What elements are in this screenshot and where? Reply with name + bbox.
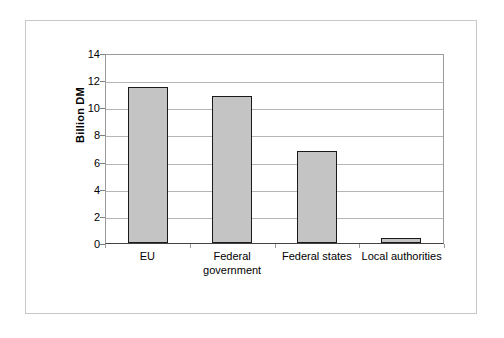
chart-figure: Billion DM 02468101214 EUFederal governm… [0,0,504,338]
y-axis-tick-mark [100,54,105,55]
bar-slot [275,55,359,243]
chart-frame: Billion DM 02468101214 EUFederal governm… [25,20,477,314]
y-axis-tick-mark [100,81,105,82]
y-axis-tick-label: 2 [78,211,100,222]
x-axis-tick-mark [444,244,445,248]
y-axis-tick-labels: 02468101214 [78,54,100,244]
x-axis-tick-mark [105,244,106,248]
plot-area [105,54,444,244]
y-axis-tick-mark [100,108,105,109]
y-axis-tick-label: 10 [78,103,100,114]
x-axis-tick-mark [275,244,276,248]
y-axis-tick-mark [100,217,105,218]
bar [212,96,252,243]
y-axis-tick-label: 6 [78,157,100,168]
bar [381,238,421,243]
bar [128,87,168,243]
x-axis-tick-mark [190,244,191,248]
bar-slot [190,55,274,243]
y-axis-tick-label: 0 [78,239,100,250]
bar-slot [106,55,190,243]
x-axis-category-label: Federal government [190,249,275,277]
x-axis-category-label: Federal states [275,249,360,277]
y-axis-tick-label: 8 [78,130,100,141]
bar [297,151,337,243]
y-axis-tick-label: 12 [78,76,100,87]
x-axis-category-label: Local authorities [359,249,444,277]
x-axis-tick-mark [359,244,360,248]
y-axis-tick-label: 14 [78,49,100,60]
bar-series [106,55,443,243]
y-axis-tick-mark [100,163,105,164]
bar-slot [359,55,443,243]
y-axis-tick-mark [100,135,105,136]
y-axis-tick-label: 4 [78,184,100,195]
x-axis-category-label: EU [105,249,190,277]
x-axis-category-labels: EUFederal governmentFederal statesLocal … [105,249,444,277]
y-axis-tick-mark [100,190,105,191]
